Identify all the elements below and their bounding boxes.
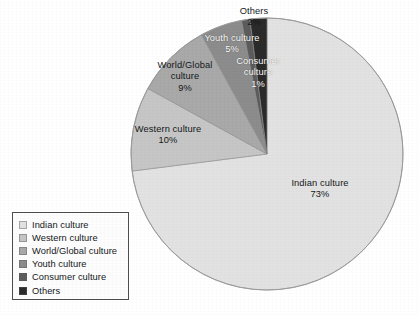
slice-label-consumer-culture: Consumer culture 1%	[219, 56, 297, 90]
slice-label-world-global-culture-name: World/Global	[158, 60, 213, 70]
slice-label-western-culture: Western culture 10%	[118, 124, 218, 147]
pie-chart: Others 2% Youth culture 5% Consumer cult…	[0, 0, 419, 315]
legend-item-youth-culture[interactable]: Youth culture	[19, 258, 128, 271]
legend-swatch-icon	[19, 260, 27, 268]
slice-label-others-name: Others	[240, 6, 269, 16]
legend-item-others[interactable]: Others	[19, 284, 128, 297]
chart-legend: Indian cultureWestern cultureWorld/Globa…	[12, 212, 129, 300]
slice-label-youth-culture: Youth culture 5%	[186, 33, 278, 56]
slice-label-western-culture-pct: 10%	[118, 135, 218, 146]
legend-swatch-icon	[19, 287, 27, 295]
slice-label-youth-culture-pct: 5%	[186, 44, 278, 55]
slice-label-consumer-culture-pct: 1%	[219, 79, 297, 90]
slice-label-western-culture-name: Western culture	[135, 124, 201, 134]
legend-item-label: Others	[32, 286, 60, 296]
legend-item-label: Western culture	[32, 233, 98, 243]
slice-label-indian-culture-name: Indian culture	[291, 178, 348, 188]
slice-label-indian-culture: Indian culture 73%	[273, 178, 367, 201]
slice-label-consumer-culture-name2: culture	[219, 67, 297, 78]
slice-label-youth-culture-name: Youth culture	[204, 33, 259, 43]
slice-label-others: Others 2%	[218, 6, 290, 29]
slice-label-world-global-culture-pct: 9%	[143, 83, 227, 94]
legend-item-label: Youth culture	[32, 259, 87, 269]
slice-label-others-pct: 2%	[218, 17, 290, 28]
legend-item-label: Consumer culture	[32, 272, 106, 282]
legend-swatch-icon	[19, 234, 27, 242]
legend-item-consumer-culture[interactable]: Consumer culture	[19, 271, 128, 284]
slice-label-world-global-culture-name2: culture	[143, 71, 227, 82]
slice-label-indian-culture-pct: 73%	[273, 189, 367, 200]
legend-item-label: World/Global culture	[32, 246, 117, 256]
slice-label-world-global-culture: World/Global culture 9%	[143, 60, 227, 94]
legend-swatch-icon	[19, 273, 27, 281]
legend-swatch-icon	[19, 247, 27, 255]
legend-item-western-culture[interactable]: Western culture	[19, 231, 128, 244]
legend-swatch-icon	[19, 221, 27, 229]
legend-item-indian-culture[interactable]: Indian culture	[19, 218, 128, 231]
legend-item-world-global-culture[interactable]: World/Global culture	[19, 244, 128, 257]
legend-item-label: Indian culture	[32, 220, 89, 230]
slice-label-consumer-culture-name: Consumer	[236, 56, 280, 66]
